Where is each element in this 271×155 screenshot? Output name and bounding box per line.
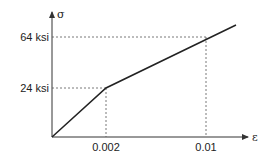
y-tick-64: 64 ksi — [20, 31, 49, 43]
x-tick-0002: 0.002 — [92, 141, 120, 153]
stress-strain-line — [52, 25, 236, 137]
x-tick-001: 0.01 — [195, 141, 216, 153]
stress-strain-chart: σ ε 24 ksi 64 ksi 0.002 0.01 — [0, 0, 271, 155]
y-axis-label: σ — [57, 8, 65, 21]
y-tick-24: 24 ksi — [20, 82, 49, 94]
x-axis-label: ε — [252, 131, 258, 144]
